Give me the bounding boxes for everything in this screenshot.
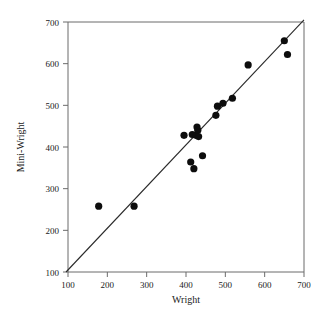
data-point-marker (194, 127, 201, 134)
data-point-marker (245, 61, 252, 68)
x-tick-label: 600 (258, 280, 272, 290)
y-tick-label: 700 (46, 18, 60, 28)
y-tick-label: 300 (46, 184, 60, 194)
axis-frame-box (68, 22, 304, 272)
y-tick-label: 400 (46, 143, 60, 153)
y-axis-tick-labels: 100200300400500600700 (46, 18, 60, 278)
x-tick-label: 200 (101, 280, 115, 290)
data-point-marker (195, 133, 202, 140)
data-point-marker (130, 203, 137, 210)
data-point-marker (95, 203, 102, 210)
x-axis-ticks (68, 272, 304, 277)
identity-line (66, 20, 304, 272)
y-tick-label: 600 (46, 59, 60, 69)
y-tick-label: 500 (46, 101, 60, 111)
y-axis-title: Mini-Wright (15, 121, 26, 172)
y-tick-label: 100 (46, 268, 60, 278)
x-axis-title: Wright (172, 294, 200, 305)
data-points-group (95, 37, 291, 210)
plot-frame (68, 22, 304, 272)
data-point-marker (281, 37, 288, 44)
data-point-marker (284, 51, 291, 58)
data-point-marker (219, 100, 226, 107)
x-tick-label: 400 (179, 280, 193, 290)
data-point-marker (187, 158, 194, 165)
identity-reference-line (66, 20, 304, 272)
data-point-marker (180, 132, 187, 139)
data-point-marker (199, 152, 206, 159)
plot-canvas: 100200300400500600700 100200300400500600… (0, 0, 325, 323)
scatter-plot-figure: 100200300400500600700 100200300400500600… (0, 0, 325, 323)
x-tick-label: 100 (61, 280, 75, 290)
x-tick-label: 500 (219, 280, 233, 290)
y-axis-ticks (63, 22, 68, 272)
data-point-marker (212, 112, 219, 119)
x-tick-label: 300 (140, 280, 154, 290)
x-tick-label: 700 (297, 280, 311, 290)
data-point-marker (190, 165, 197, 172)
data-point-marker (229, 95, 236, 102)
y-tick-label: 200 (46, 226, 60, 236)
x-axis-tick-labels: 100200300400500600700 (61, 280, 311, 290)
